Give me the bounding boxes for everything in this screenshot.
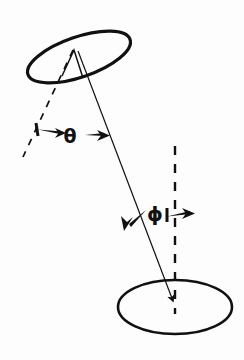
figure-canvas: θ ϕ [0,0,244,360]
angle-diagram: θ ϕ [0,0,244,360]
theta-label: θ [63,125,76,147]
phi-label: ϕ [147,202,163,226]
